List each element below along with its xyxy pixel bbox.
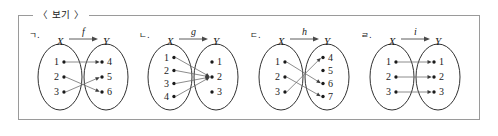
codomain-element-label: 2 [217,71,222,82]
domain-element-dot [172,82,175,85]
mapping-panels-container: ㄱ. XYf123456 ㄴ. XYg1234123 ㄷ. XYh1234567… [18,15,480,120]
codomain-ellipse [84,44,128,110]
codomain-element-label: 7 [328,91,333,102]
codomain-element-dot [432,90,435,93]
codomain-element-dot [100,75,103,78]
domain-element-label: 3 [386,86,391,97]
codomain-element-label: 1 [439,56,444,67]
domain-ellipse [38,44,82,110]
codomain-element-dot [210,90,213,93]
domain-set-label: X [388,35,397,47]
mapping-arrow-head [96,60,100,64]
mapping-panel-3: ㄷ. XYh1234567 [249,15,357,120]
codomain-element-label: 3 [439,86,444,97]
mapping-diagram-figure: 〈 보기 〉 ㄱ. XYf123456 ㄴ. XYg1234123 ㄷ. XYh… [0,0,498,136]
domain-element-label: 1 [164,52,169,63]
codomain-element-label: 2 [439,71,444,82]
mapping-panel-4: ㄹ. XYi123123 [360,15,468,120]
mapping-arrow-head [428,60,432,64]
codomain-element-label: 4 [328,52,333,63]
function-name-label: g [191,26,196,37]
domain-set-label: X [166,35,175,47]
domain-element-dot [283,75,286,78]
mapping-line [176,58,207,76]
domain-element-dot [394,75,397,78]
domain-element-dot [283,60,286,63]
domain-ellipse [148,44,192,110]
function-arrow-head [202,36,208,41]
domain-element-label: 3 [275,86,280,97]
function-name-label: h [302,26,307,37]
domain-element-label: 1 [54,56,59,67]
mapping-panel-1: ㄱ. XYf123456 [28,15,136,120]
mapping-svg-4: XYi123123 [360,15,468,120]
codomain-element-dot [210,75,213,78]
domain-ellipse [259,44,303,110]
mapping-line [66,79,97,92]
domain-element-label: 2 [275,71,280,82]
domain-element-label: 1 [275,56,280,67]
mapping-line [287,77,318,95]
domain-set-label: X [56,35,65,47]
domain-element-label: 4 [164,91,169,102]
domain-element-label: 3 [164,78,169,89]
function-name-label: i [414,26,417,37]
domain-element-label: 2 [54,71,59,82]
function-arrow-head [92,36,98,41]
mapping-svg-3: XYh1234567 [249,15,357,120]
domain-element-label: 2 [164,65,169,76]
domain-element-dot [62,60,65,63]
mapping-line [176,78,207,84]
mapping-arrow-head [428,90,432,94]
mapping-svg-1: XYf123456 [28,15,136,120]
codomain-element-dot [321,56,324,59]
mapping-line [176,79,207,97]
codomain-element-label: 5 [107,71,112,82]
mapping-line [176,71,207,77]
function-name-label: f [82,26,86,37]
codomain-element-dot [210,60,213,63]
codomain-element-label: 4 [107,56,112,67]
codomain-element-label: 6 [107,86,112,97]
codomain-ellipse [194,44,238,110]
mapping-panel-2: ㄴ. XYg1234123 [138,15,246,120]
codomain-set-label: Y [103,35,111,47]
codomain-element-label: 1 [217,56,222,67]
domain-element-label: 2 [386,71,391,82]
codomain-element-dot [432,60,435,63]
codomain-element-dot [321,69,324,72]
domain-element-dot [394,60,397,63]
mapping-arrow-head [428,75,432,79]
mapping-svg-2: XYg1234123 [138,15,246,120]
codomain-element-dot [321,82,324,85]
codomain-element-label: 5 [328,65,333,76]
mapping-line [287,62,318,81]
codomain-element-label: 6 [328,78,333,89]
domain-element-dot [172,95,175,98]
codomain-set-label: Y [324,35,332,47]
domain-element-dot [62,75,65,78]
codomain-element-dot [321,95,324,98]
codomain-ellipse [305,44,349,110]
codomain-element-dot [432,75,435,78]
codomain-element-label: 3 [217,86,222,97]
domain-element-dot [283,90,286,93]
function-arrow-head [313,36,319,41]
domain-element-dot [172,69,175,72]
mapping-arrow-head [316,79,321,83]
codomain-set-label: Y [213,35,221,47]
codomain-set-label: Y [435,35,443,47]
codomain-element-dot [100,60,103,63]
codomain-element-dot [100,90,103,93]
domain-set-label: X [277,35,286,47]
function-arrow-head [424,36,430,41]
domain-element-label: 3 [54,86,59,97]
domain-element-dot [394,90,397,93]
domain-element-label: 1 [386,56,391,67]
domain-element-dot [172,56,175,59]
domain-element-dot [62,90,65,93]
